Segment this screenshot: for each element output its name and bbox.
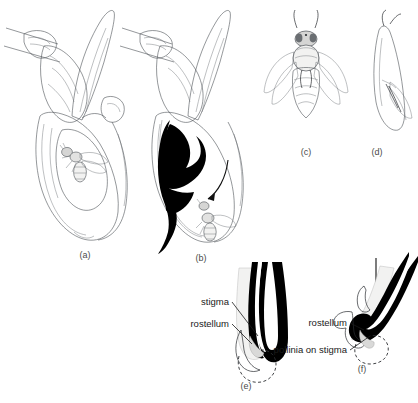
figure-canvas: (a) [0, 0, 418, 403]
panel-letter-a: (a) [80, 250, 91, 260]
label-pollinia-on-stigma: pollinia on stigma [274, 344, 348, 355]
label-stigma: stigma [201, 296, 230, 307]
panel-letter-c: (c) [301, 147, 312, 157]
figure-background [0, 0, 418, 403]
panel-letter-b: (b) [196, 253, 207, 263]
label-rostellum-f: rostellum [308, 317, 347, 328]
panel-letter-e: (e) [241, 381, 252, 391]
panel-letter-f: (f) [358, 364, 367, 374]
panel-letter-d: (d) [372, 147, 383, 157]
label-rostellum-e: rostellum [190, 318, 229, 329]
